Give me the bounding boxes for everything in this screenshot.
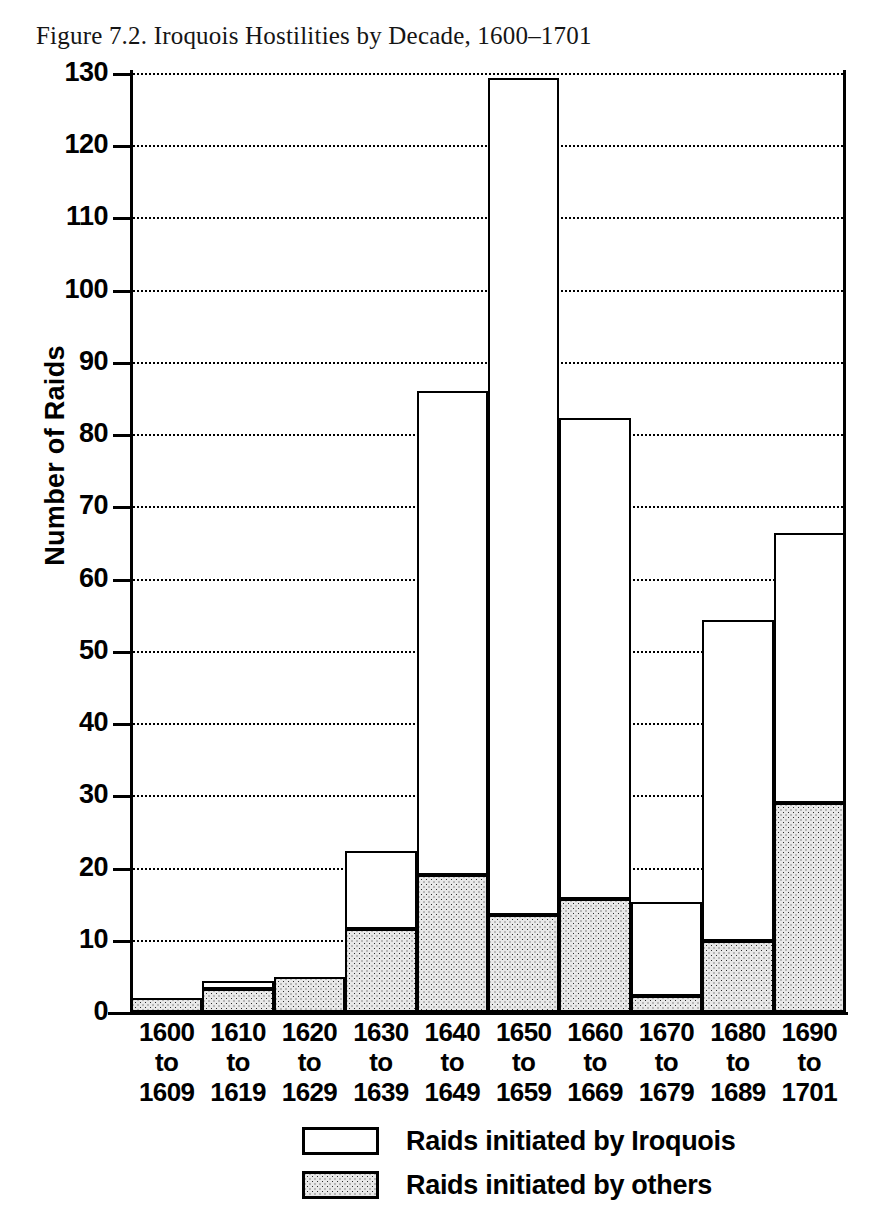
bar-column [559, 73, 630, 1012]
figure-container: Figure 7.2. Iroquois Hostilities by Deca… [0, 0, 878, 1219]
x-axis-label: 1600to1609 [131, 1017, 202, 1107]
bar-column [774, 73, 845, 1012]
x-axis-label-line: to [774, 1047, 845, 1077]
x-axis-label: 1690to1701 [774, 1017, 845, 1107]
bar-segment-others [202, 989, 273, 1012]
y-axis-tick [113, 362, 130, 365]
bar-segment-iroquois [702, 620, 773, 941]
y-axis-tick-label: 100 [18, 276, 108, 303]
x-axis-label-line: 1619 [202, 1077, 273, 1107]
x-axis-label-line: 1669 [559, 1077, 630, 1107]
x-axis-label-line: to [417, 1047, 488, 1077]
x-axis-label-line: 1690 [774, 1017, 845, 1047]
y-axis-tick-label: 90 [18, 348, 108, 375]
y-axis-tick [113, 145, 130, 148]
y-axis-tick [113, 868, 130, 871]
x-axis-label-line: to [202, 1047, 273, 1077]
bar-column [488, 73, 559, 1012]
bar-segment-others [345, 929, 416, 1012]
x-axis-label: 1670to1679 [631, 1017, 702, 1107]
y-axis-tick-label: 40 [18, 709, 108, 736]
bar-group [131, 73, 845, 1012]
y-axis-tick-label: 30 [18, 781, 108, 808]
x-axis-label-line: 1701 [774, 1077, 845, 1107]
bar-segment-iroquois [559, 418, 630, 899]
bar-segment-others [559, 899, 630, 1012]
x-axis-label-line: to [345, 1047, 416, 1077]
y-axis-tick [113, 217, 130, 220]
y-axis-tick-label: 110 [18, 203, 108, 230]
figure-title: Figure 7.2. Iroquois Hostilities by Deca… [36, 22, 592, 50]
bar-segment-others [774, 803, 845, 1012]
x-axis-label: 1620to1629 [274, 1017, 345, 1107]
x-axis-label-line: 1650 [488, 1017, 559, 1047]
x-axis-label-line: 1609 [131, 1077, 202, 1107]
x-axis-label-line: 1670 [631, 1017, 702, 1047]
bar-column [631, 73, 702, 1012]
legend-item-iroquois: Raids initiated by Iroquois [302, 1122, 772, 1160]
y-axis-label: Number of Raids [40, 256, 71, 656]
x-axis-label-line: to [559, 1047, 630, 1077]
x-axis-label: 1640to1649 [417, 1017, 488, 1107]
y-axis-tick [113, 651, 130, 654]
bar-column [274, 73, 345, 1012]
y-axis-tick-label: 70 [18, 492, 108, 519]
x-axis-label-line: to [488, 1047, 559, 1077]
x-axis-label-line: to [131, 1047, 202, 1077]
bar-segment-iroquois [345, 851, 416, 929]
x-axis-label-line: 1640 [417, 1017, 488, 1047]
bar-segment-iroquois [631, 902, 702, 996]
x-axis-label-line: 1659 [488, 1077, 559, 1107]
x-axis-label-line: to [702, 1047, 773, 1077]
x-axis-label-line: to [631, 1047, 702, 1077]
x-axis-label-line: 1680 [702, 1017, 773, 1047]
x-axis-label-line: 1649 [417, 1077, 488, 1107]
bar-segment-iroquois [202, 981, 273, 989]
x-axis-label-line: to [274, 1047, 345, 1077]
y-axis-tick [113, 940, 130, 943]
y-axis-tick [113, 579, 130, 582]
y-axis-tick [113, 290, 130, 293]
x-axis-label-line: 1689 [702, 1077, 773, 1107]
bar-column [131, 73, 202, 1012]
x-axis-line [108, 1012, 848, 1015]
chart-legend: Raids initiated by Iroquois Raids initia… [302, 1122, 772, 1210]
x-axis-label-line: 1620 [274, 1017, 345, 1047]
bar-segment-others [702, 941, 773, 1012]
bar-segment-others [274, 977, 345, 1012]
x-axis-label-line: 1639 [345, 1077, 416, 1107]
bar-segment-others [631, 996, 702, 1012]
x-axis-labels: 1600to16091610to16191620to16291630to1639… [131, 1017, 845, 1112]
x-axis-label: 1650to1659 [488, 1017, 559, 1107]
bar-segment-others [488, 915, 559, 1013]
bar-column [202, 73, 273, 1012]
x-axis-label-line: 1629 [274, 1077, 345, 1107]
legend-label-others: Raids initiated by others [406, 1170, 712, 1201]
legend-label-iroquois: Raids initiated by Iroquois [406, 1126, 735, 1157]
bar-segment-others [417, 875, 488, 1012]
y-axis-tick-label: 20 [18, 854, 108, 881]
y-axis-tick [113, 434, 130, 437]
x-axis-label: 1680to1689 [702, 1017, 773, 1107]
y-axis-tick [113, 506, 130, 509]
y-axis-tick [113, 723, 130, 726]
y-axis-tick-label: 0 [18, 998, 108, 1025]
y-axis-tick-label: 60 [18, 565, 108, 592]
y-axis-tick [113, 1012, 130, 1015]
y-axis-tick-label: 120 [18, 131, 108, 158]
y-axis-tick-label: 10 [18, 926, 108, 953]
legend-swatch-white-icon [302, 1127, 379, 1155]
x-axis-label-line: 1600 [131, 1017, 202, 1047]
bar-segment-iroquois [774, 533, 845, 802]
y-axis-tick [113, 795, 130, 798]
bar-column [345, 73, 416, 1012]
bar-column [417, 73, 488, 1012]
y-axis-tick [113, 73, 130, 76]
bar-column [702, 73, 773, 1012]
x-axis-label-line: 1610 [202, 1017, 273, 1047]
y-axis-tick-label: 80 [18, 420, 108, 447]
x-axis-label: 1630to1639 [345, 1017, 416, 1107]
bar-segment-iroquois [417, 391, 488, 875]
plot-area: 0102030405060708090100110120130 [130, 73, 845, 1012]
legend-swatch-stipple-icon [302, 1171, 379, 1199]
